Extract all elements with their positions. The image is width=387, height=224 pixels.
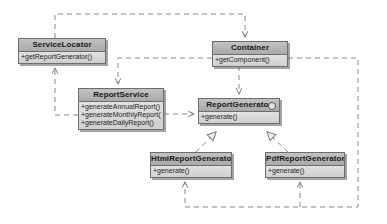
class-name-report-generator: ReportGenerator <box>199 99 279 112</box>
class-box-report-service[interactable]: ReportService +generateAnnualReport() +g… <box>78 88 164 130</box>
interface-circle-icon <box>268 102 276 110</box>
class-box-service-locator[interactable]: ServiceLocator +getReportGenerator() <box>18 38 106 64</box>
edge-html-realizes-reportgenerator <box>196 132 216 152</box>
uml-class-diagram-canvas: ServiceLocator +getReportGenerator() Con… <box>0 0 387 224</box>
class-members-report-service: +generateAnnualReport() +generateMonthly… <box>79 102 163 129</box>
class-members-report-generator: +generate() <box>199 112 279 123</box>
class-members-service-locator: +getReportGenerator() <box>19 52 105 63</box>
class-member: +generateAnnualReport() <box>81 103 161 111</box>
class-box-report-generator[interactable]: ReportGenerator +generate() <box>198 98 280 124</box>
class-members-container: +getComponent() <box>213 55 287 66</box>
class-member: +generate() <box>201 113 277 121</box>
class-box-container[interactable]: Container +getComponent() <box>212 41 288 67</box>
edge-container-reportservice <box>118 58 212 84</box>
class-member: +getReportGenerator() <box>21 53 103 61</box>
class-name-label: ReportGenerator <box>206 100 272 109</box>
class-members-pdf-report-generator: +generate() <box>266 166 344 177</box>
class-box-html-report-generator[interactable]: HtmlReportGenerator +generate() <box>150 152 232 178</box>
class-box-pdf-report-generator[interactable]: PdfReportGenerator +generate() <box>265 152 345 178</box>
class-member: +generateMonthlyReport() <box>81 111 161 119</box>
edge-reportservice-servicelocator <box>55 68 78 115</box>
class-name-container: Container <box>213 42 287 55</box>
edge-servicelocator-container <box>55 14 245 38</box>
class-members-html-report-generator: +generate() <box>151 166 231 177</box>
class-member: +getComponent() <box>215 56 285 64</box>
class-member: +generate() <box>153 167 229 175</box>
class-name-report-service: ReportService <box>79 89 163 102</box>
edge-container-html <box>185 58 358 207</box>
class-name-pdf-report-generator: PdfReportGenerator <box>266 153 344 166</box>
edge-pdf-realizes-reportgenerator <box>267 132 288 152</box>
class-member: +generateDailyReport() <box>81 119 161 127</box>
class-name-service-locator: ServiceLocator <box>19 39 105 52</box>
relationship-edges <box>0 0 387 224</box>
class-name-html-report-generator: HtmlReportGenerator <box>151 153 231 166</box>
class-member: +generate() <box>268 167 342 175</box>
